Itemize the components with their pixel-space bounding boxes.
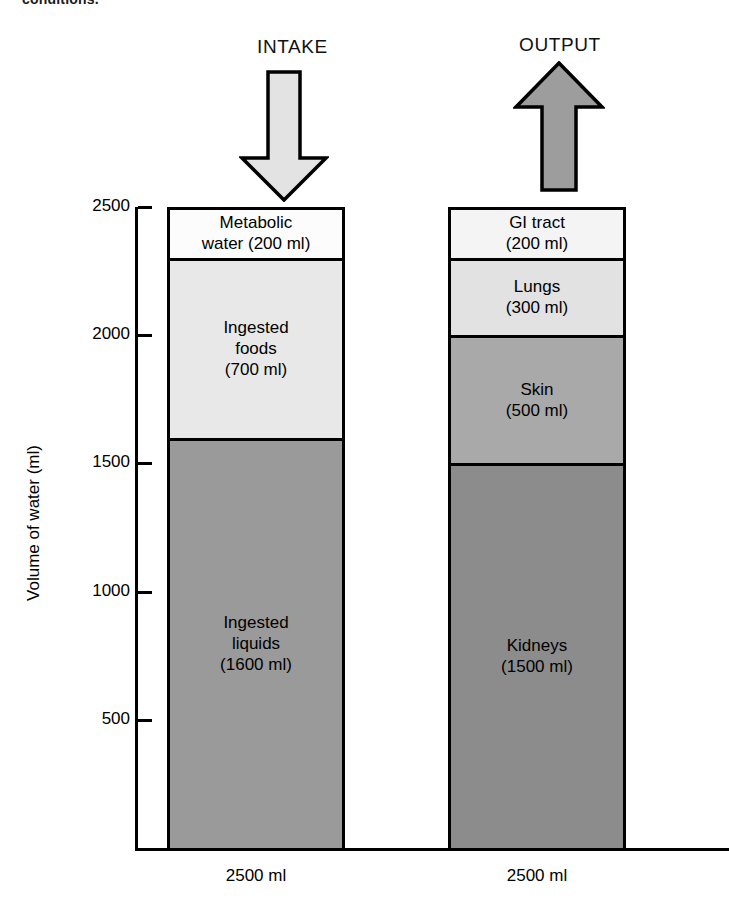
y-axis-tick	[138, 719, 152, 722]
bar-segment-label: Kidneys (1500 ml)	[501, 636, 573, 677]
bar-segment-label: GI tract (200 ml)	[506, 213, 568, 254]
y-axis-tick	[138, 334, 152, 337]
y-axis-tick-label: 500	[52, 709, 130, 729]
y-axis-tick	[138, 591, 152, 594]
bar-segment-label: Ingested liquids (1600 ml)	[220, 613, 292, 675]
y-axis-tick	[138, 462, 152, 465]
bar-segment-label: Ingested foods (700 ml)	[223, 318, 288, 380]
bar-segment-label: Lungs (300 ml)	[506, 277, 568, 318]
bar-output: GI tract (200 ml)Lungs (300 ml)Skin (500…	[448, 207, 626, 851]
bar-segment-label: Skin (500 ml)	[506, 380, 568, 421]
y-axis-line	[135, 207, 138, 850]
y-axis-tick	[138, 206, 152, 209]
bar-segment: Skin (500 ml)	[451, 338, 623, 466]
bar-segment: Ingested liquids (1600 ml)	[170, 441, 342, 851]
stacked-bar-chart: 2500200015001000500 Volume of water (ml)…	[0, 0, 729, 914]
bar-intake: Metabolic water (200 ml)Ingested foods (…	[167, 207, 345, 851]
bar-segment: Kidneys (1500 ml)	[451, 466, 623, 851]
y-axis-tick-label: 1500	[52, 452, 130, 472]
total-label-intake: 2500 ml	[167, 866, 345, 886]
bar-segment: Ingested foods (700 ml)	[170, 261, 342, 440]
bar-segment: Lungs (300 ml)	[451, 261, 623, 338]
bar-segment-label: Metabolic water (200 ml)	[202, 213, 311, 254]
y-axis-title: Volume of water (ml)	[24, 393, 44, 653]
total-label-output: 2500 ml	[448, 866, 626, 886]
y-axis-tick-label: 2000	[52, 324, 130, 344]
y-axis-tick-label: 1000	[52, 581, 130, 601]
bar-segment: GI tract (200 ml)	[451, 210, 623, 261]
y-axis-tick-label: 2500	[52, 196, 130, 216]
bar-segment: Metabolic water (200 ml)	[170, 210, 342, 261]
